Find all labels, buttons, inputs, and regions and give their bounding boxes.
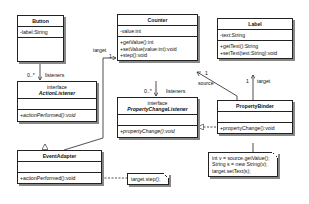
- class-button: Button -label:String: [17, 15, 64, 62]
- operations: +getValue():int +setValue(value:int):voi…: [118, 37, 197, 60]
- interface-header: interface ActionListener: [18, 82, 96, 99]
- class-label: Label -text:String +getText():String +se…: [217, 18, 293, 59]
- operation: +propertyChange():void: [220, 125, 290, 131]
- note-line: String s = new String(v);: [212, 161, 269, 167]
- class-name: PropertyBinder: [218, 101, 292, 112]
- mult-button-listeners: 0..*: [27, 72, 35, 78]
- class-name: Button: [18, 16, 63, 27]
- role-adapter-target: target: [93, 47, 106, 53]
- operations: +propertyChange():void: [218, 123, 292, 133]
- note-event-adapter: target.step();: [127, 173, 169, 185]
- interface-name: PropertyChangeListener: [119, 106, 196, 112]
- attributes: -text:String: [218, 30, 292, 41]
- class-event-adapter: EventAdapter +actionPerformed():void: [17, 150, 102, 184]
- note-line: target.step();: [131, 176, 160, 182]
- note-fold-icon: [272, 152, 278, 158]
- interface-header: interface PropertyChangeListener: [118, 98, 197, 115]
- role-binder-source: source: [198, 80, 214, 86]
- operation: +setText(text:String):void: [220, 50, 290, 56]
- attribute: -text:String: [220, 32, 290, 38]
- interface-property-change-listener: interface PropertyChangeListener +proper…: [117, 97, 198, 138]
- class-name: Label: [218, 19, 292, 30]
- role-button-listeners: listeners: [45, 72, 64, 78]
- attribute: -label:String: [20, 29, 61, 35]
- role-binder-target: target: [257, 78, 270, 84]
- operations: +propertyChange():void: [118, 126, 197, 136]
- class-name: EventAdapter: [18, 151, 101, 162]
- class-counter: Counter -value:int +getValue():int +setV…: [117, 14, 198, 61]
- mult-binder-target: 1: [246, 78, 249, 84]
- mult-binder-source: 1: [205, 70, 208, 76]
- operations: [18, 38, 63, 48]
- mult-adapter-target: 1: [109, 53, 112, 59]
- interface-name: ActionListener: [19, 90, 95, 96]
- attribute: -value:int: [120, 28, 195, 34]
- operation: +propertyChange():void: [120, 128, 195, 134]
- operation: +actionPerformed():void: [20, 175, 99, 181]
- operations: +getText():String +setText(text:String):…: [218, 41, 292, 57]
- attributes: [118, 115, 197, 126]
- class-property-binder: PropertyBinder +propertyChange():void: [217, 100, 293, 134]
- operations: +actionPerformed():void: [18, 173, 101, 183]
- note-fold-icon: [163, 173, 169, 179]
- role-counter-listeners: listeners: [166, 88, 185, 94]
- note-property-binder: int v = source.getValue(); String s = ne…: [208, 152, 278, 177]
- attributes: -label:String: [18, 27, 63, 38]
- class-name: Counter: [118, 15, 197, 26]
- mult-counter-listeners: 0..*: [144, 88, 152, 94]
- attributes: [218, 112, 292, 123]
- attributes: [18, 162, 101, 173]
- operation: +actionPerformed():void: [20, 112, 94, 118]
- attributes: -value:int: [118, 26, 197, 37]
- note-line: target.setText(s);: [212, 168, 269, 174]
- interface-action-listener: interface ActionListener +actionPerforme…: [17, 81, 97, 122]
- operations: +actionPerformed():void: [18, 110, 96, 120]
- attributes: [18, 99, 96, 110]
- operation: +step():void: [120, 52, 195, 58]
